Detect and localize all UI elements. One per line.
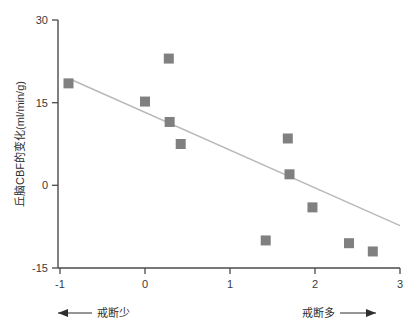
data-point <box>176 139 186 149</box>
y-axis-ticks: 30 15 0 -15 <box>32 14 58 274</box>
data-point <box>368 246 378 256</box>
data-point <box>140 97 150 107</box>
x-tick-label-2: 2 <box>312 278 318 290</box>
data-point <box>165 117 175 127</box>
data-point <box>164 54 174 64</box>
annotation-left: 戒断少 <box>58 306 130 319</box>
data-point <box>285 169 295 179</box>
x-tick-label-1: 1 <box>227 278 233 290</box>
annotation-right-label: 戒断多 <box>302 306 335 319</box>
annotation-right: 戒断多 <box>302 306 376 319</box>
y-tick-label-15: 15 <box>36 97 48 109</box>
y-tick-label-0: 0 <box>42 179 48 191</box>
data-point <box>64 78 74 88</box>
y-tick-label-30: 30 <box>36 14 48 26</box>
data-point <box>283 133 293 143</box>
annotation-left-label: 戒断少 <box>97 306 130 319</box>
y-axis-title: 丘脑CBF的变化(ml/min/g) <box>13 81 26 207</box>
left-arrow-icon <box>58 309 68 317</box>
right-arrow-icon <box>366 309 376 317</box>
x-tick-label-3: 3 <box>397 278 403 290</box>
trend-line <box>71 80 400 226</box>
x-tick-label-minus1: -1 <box>55 278 65 290</box>
chart-figure: 30 15 0 -15 -1 0 1 2 3 丘脑CBF的变化(ml/min/g… <box>0 0 412 330</box>
data-point <box>307 202 317 212</box>
x-axis-ticks: -1 0 1 2 3 <box>55 268 403 290</box>
data-point <box>344 238 354 248</box>
data-point-group <box>64 54 378 257</box>
scatter-plot: 30 15 0 -15 -1 0 1 2 3 丘脑CBF的变化(ml/min/g… <box>0 0 412 330</box>
x-tick-label-0: 0 <box>142 278 148 290</box>
y-tick-label-minus15: -15 <box>32 262 48 274</box>
data-point <box>261 235 271 245</box>
